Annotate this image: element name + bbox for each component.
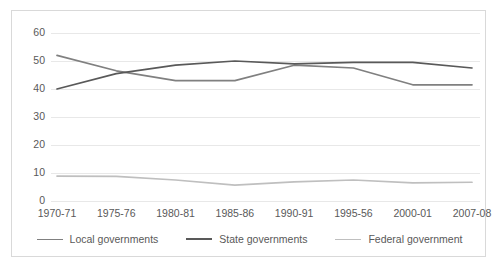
line-chart-canvas [12,11,487,258]
x-tick-label: 1975-76 [88,207,144,219]
x-tick-label: 2007-08 [444,207,499,219]
legend-item-state[interactable]: State governments [186,233,307,245]
x-tick-label: 1990-91 [266,207,322,219]
series-line-local-governments [57,55,472,84]
plot-area: 6050403020100 1970-711975-761980-811985-… [12,11,485,256]
legend-swatch-federal [335,239,361,240]
y-tick-label: 20 [17,139,45,150]
legend-item-federal[interactable]: Federal government [335,233,462,245]
chart-frame: 6050403020100 1970-711975-761980-811985-… [11,10,486,257]
y-tick-label: 30 [17,111,45,122]
legend-swatch-state [186,238,212,240]
x-tick-label: 1970-71 [29,207,85,219]
legend-item-local[interactable]: Local governments [37,233,159,245]
x-tick-label: 1985-86 [207,207,263,219]
y-tick-label: 10 [17,167,45,178]
series-line-federal-government [57,176,472,185]
chart-legend: Local governments State governments Fede… [12,233,487,245]
series-lines [57,55,472,185]
legend-label-federal: Federal government [368,233,462,245]
legend-label-state: State governments [219,233,307,245]
y-tick-label: 50 [17,55,45,66]
x-tick-label: 2000-01 [385,207,441,219]
legend-label-local: Local governments [70,233,159,245]
x-tick-label: 1980-81 [148,207,204,219]
y-tick-label: 60 [17,27,45,38]
y-tick-label: 0 [17,195,45,206]
y-tick-label: 40 [17,83,45,94]
legend-swatch-local [37,239,63,240]
x-tick-label: 1995-56 [325,207,381,219]
